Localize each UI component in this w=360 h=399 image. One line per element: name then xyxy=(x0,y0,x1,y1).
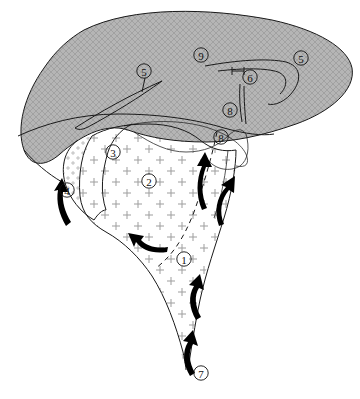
label-2-text: 2 xyxy=(146,176,152,188)
label-5-right-text: 5 xyxy=(298,53,304,65)
geological-block-diagram: 1 2 3 4 5 5 6 7 xyxy=(0,0,360,399)
diagram-root: 1 2 3 4 5 5 6 7 xyxy=(0,0,360,399)
label-4-text: 4 xyxy=(64,185,70,197)
label-8-upper-text: 8 xyxy=(227,105,233,117)
label-6-text: 6 xyxy=(247,72,253,84)
label-8-lower-text: 8 xyxy=(218,132,224,144)
label-1-text: 1 xyxy=(181,254,187,266)
label-5-left-text: 5 xyxy=(141,66,147,78)
label-7: 7 xyxy=(194,366,208,380)
label-9-text: 9 xyxy=(198,50,204,62)
label-3-text: 3 xyxy=(110,147,116,159)
label-7-text: 7 xyxy=(198,368,204,380)
